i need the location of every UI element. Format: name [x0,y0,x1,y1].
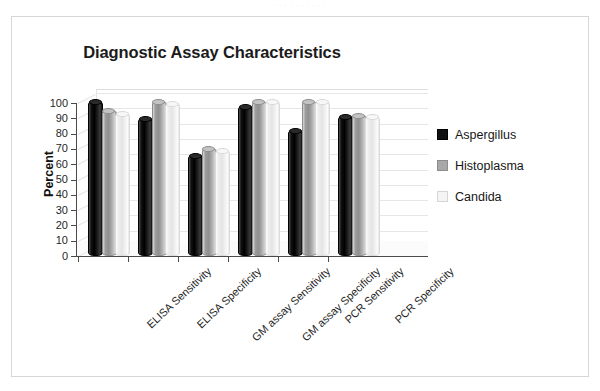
y-axis-tick [71,195,76,196]
legend-label: Aspergillus [455,128,516,142]
plot-region: 0102030405060708090100 [72,89,428,264]
bar-aspergillus [338,116,353,256]
y-axis-tick-label: 30 [38,205,68,216]
legend-swatch-aspergillus [437,129,448,140]
bar-top-cap [89,99,102,105]
chart-legend: AspergillusHistoplasmaCandida [437,119,582,212]
bar-group [88,103,129,256]
y-axis-title: Percent [42,151,56,197]
chart-title: Diagnostic Assay Characteristics [12,43,412,62]
y-axis-tick [71,103,76,104]
y-axis-tick-label: 0 [38,251,68,262]
y-axis-tick [71,210,76,211]
bar-aspergillus [288,130,303,256]
x-axis-tick [178,256,179,262]
bar-top-cap [116,111,129,117]
y-axis-tick [71,134,76,135]
x-axis-tick [128,256,129,262]
bar-top-cap [166,101,179,107]
y-axis-tick-label: 90 [38,113,68,124]
legend-swatch-histoplasma [437,160,448,171]
bar-top-cap [152,99,165,105]
bar-candida [115,113,130,256]
bar-aspergillus [88,101,103,256]
bar-candida [265,101,280,256]
y-axis-tick-label: 100 [38,98,68,109]
bar-aspergillus [138,118,153,256]
bar-top-cap [289,128,302,134]
bar-group [338,103,379,256]
bar-top-cap [316,99,329,105]
bar-group [138,103,179,256]
legend-item-histoplasma[interactable]: Histoplasma [437,150,582,181]
y-axis-tick [71,164,76,165]
x-axis-tick [228,256,229,262]
figure-panel: Diagnostic Assay Characteristics 0102030… [11,16,589,377]
y-axis-tick-label: 20 [38,220,68,231]
legend-item-candida[interactable]: Candida [437,181,582,212]
bar-top-cap [189,153,202,159]
bar-candida [165,103,180,256]
bar-top-cap [139,116,152,122]
bar-candida [365,116,380,256]
bar-top-cap [302,99,315,105]
bar-aspergillus [238,106,253,256]
bar-top-cap [239,104,252,110]
legend-label: Histoplasma [455,159,524,173]
bar-aspergillus [188,155,203,256]
bar-top-cap [252,99,265,105]
bar-group [238,103,279,256]
y-axis-tick [71,118,76,119]
bar-top-cap [339,114,352,120]
gridline [96,93,428,94]
x-axis-tick [78,256,79,262]
bar-top-cap [202,146,215,152]
bar-top-cap [102,108,115,114]
legend-item-aspergillus[interactable]: Aspergillus [437,119,582,150]
y-axis-tick [71,180,76,181]
bar-group [288,103,329,256]
y-axis-tick-label: 10 [38,235,68,246]
y-axis-line [76,103,77,256]
y-axis-tick [71,241,76,242]
bar-top-cap [366,114,379,120]
bar-top-cap [216,148,229,154]
y-axis-tick-label: 80 [38,128,68,139]
plot-back-top-edge [96,89,428,90]
bar-group [188,103,229,256]
bar-top-cap [266,99,279,105]
legend-swatch-candida [437,191,448,202]
x-axis-tick [328,256,329,262]
bar-candida [215,150,230,256]
y-axis-tick [71,225,76,226]
bar-candida [315,101,330,256]
legend-label: Candida [455,190,502,204]
bar-top-cap [352,113,365,119]
top-crop-artifact: · · · · · · · · · · [0,0,600,12]
y-axis-tick [71,149,76,150]
x-axis-tick [278,256,279,262]
y-axis-tick [71,256,76,257]
